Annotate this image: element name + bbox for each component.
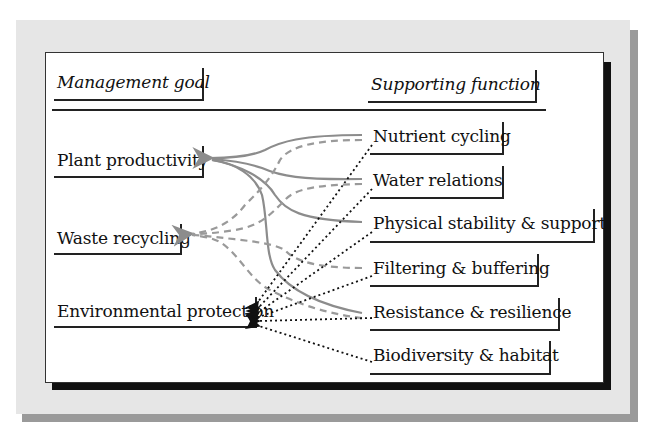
header-divider — [52, 109, 546, 111]
function-nutrient-cycling: Nutrient cycling — [370, 122, 504, 155]
goal-waste-recycling: Waste recycling — [54, 224, 182, 255]
outer-shadow-bottom — [22, 414, 638, 422]
function-water-relations: Water relations — [370, 166, 504, 199]
function-filtering-buffering: Filtering & buffering — [370, 254, 539, 287]
header-supporting-function: Supporting function — [368, 70, 537, 103]
function-physical-stability: Physical stability & support — [370, 209, 595, 243]
function-resistance-resilience: Resistance & resilience — [370, 298, 560, 331]
function-biodiversity-habitat: Biodiversity & habitat — [370, 341, 551, 375]
card-shadow-bottom — [52, 382, 611, 390]
outer-shadow-right — [630, 30, 638, 422]
goal-plant-productivity: Plant productivity — [54, 146, 204, 178]
goal-environmental-protection: Environmental protection — [54, 297, 257, 328]
header-management-goal: Management goal — [54, 68, 204, 101]
